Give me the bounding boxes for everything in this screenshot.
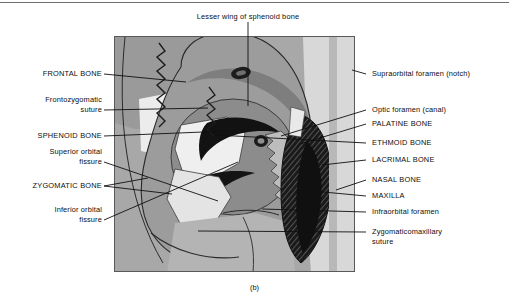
label-lacrimal-bone: LACRIMAL BONE bbox=[372, 155, 509, 165]
label-palatine-bone: PALATINE BONE bbox=[372, 119, 509, 129]
label-infraorbital-foramen: Infraorbital foramen bbox=[372, 207, 509, 217]
page-top-rule bbox=[0, 2, 509, 3]
label-nasal-bone: NASAL BONE bbox=[372, 175, 509, 185]
label-frontozygomatic-suture: Frontozygomatic suture bbox=[0, 95, 102, 114]
label-sphenoid-bone: SPHENOID BONE bbox=[0, 131, 102, 141]
label-lesser-wing-of-sphenoid-bone: Lesser wing of sphenoid bone bbox=[148, 12, 348, 22]
label-ethmoid-bone: ETHMOID BONE bbox=[372, 138, 509, 148]
region-right-margin-band bbox=[329, 37, 337, 272]
figure-page: D. Apple Lesser wing of sp bbox=[0, 0, 509, 306]
label-superior-orbital-fissure: Superior orbital fissure bbox=[0, 147, 102, 166]
label-maxilla: MAXILLA bbox=[372, 191, 509, 201]
label-supraorbital-foramen-notch: Supraorbital foramen (notch) bbox=[372, 69, 509, 79]
label-optic-foramen-canal: Optic foramen (canal) bbox=[372, 105, 509, 115]
optic-foramen-inner bbox=[258, 138, 265, 144]
label-inferior-orbital-fissure: Inferior orbital fissure bbox=[0, 205, 102, 224]
label-frontal-bone: FRONTAL BONE bbox=[0, 69, 102, 79]
skull-illustration-svg bbox=[115, 37, 355, 272]
region-maxilla bbox=[167, 213, 295, 272]
figure-caption: (b) bbox=[0, 283, 509, 292]
skull-orbit-illustration: D. Apple bbox=[114, 36, 355, 272]
label-zygomaticomaxillary-suture: Zygomaticomaxillary suture bbox=[372, 227, 509, 246]
label-zygomatic-bone: ZYGOMATIC BONE bbox=[0, 181, 102, 191]
